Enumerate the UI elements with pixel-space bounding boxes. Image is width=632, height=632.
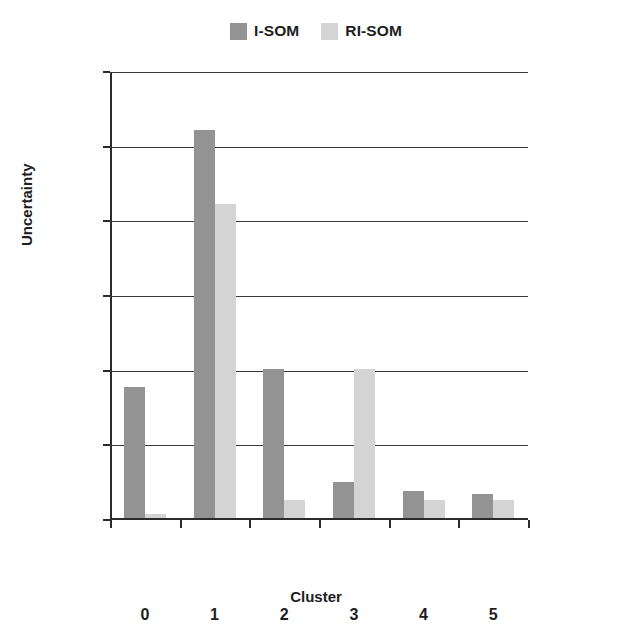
x-tick-label: 1 <box>210 606 219 624</box>
bar-i-som-cluster-4 <box>403 491 424 518</box>
x-tick-label: 0 <box>140 606 149 624</box>
x-tick-mark <box>458 520 460 528</box>
legend-label-ri-som: RI-SOM <box>345 22 402 40</box>
bar-i-som-cluster-5 <box>472 494 493 518</box>
x-axis-title: Cluster <box>0 588 632 605</box>
bar-ri-som-cluster-0 <box>145 514 166 518</box>
y-tick-mark <box>103 444 110 446</box>
x-tick-mark <box>180 520 182 528</box>
bar-ri-som-cluster-5 <box>493 500 514 518</box>
gridline <box>110 221 528 222</box>
gridline <box>110 72 528 73</box>
x-tick-label: 5 <box>489 606 498 624</box>
y-tick-mark <box>103 220 110 222</box>
x-tick-label: 4 <box>419 606 428 624</box>
bar-i-som-cluster-2 <box>263 369 284 518</box>
bar-ri-som-cluster-4 <box>424 500 445 518</box>
chart-legend: I-SOM RI-SOM <box>0 22 632 40</box>
y-tick-mark <box>103 370 110 372</box>
legend-swatch-i-som <box>230 23 247 40</box>
y-tick-mark <box>103 295 110 297</box>
plot-area: 00.0050.010.0150.020.0250.03 012345 <box>110 72 528 520</box>
x-tick-label: 2 <box>280 606 289 624</box>
legend-entry-ri-som: RI-SOM <box>321 22 402 40</box>
bar-i-som-cluster-0 <box>124 387 145 518</box>
x-tick-mark <box>110 520 112 528</box>
legend-entry-i-som: I-SOM <box>230 22 299 40</box>
gridline <box>110 296 528 297</box>
x-tick-mark <box>319 520 321 528</box>
gridline <box>110 147 528 148</box>
y-tick-mark <box>103 519 110 521</box>
y-axis-title: Uncertainty <box>18 163 35 246</box>
gridline <box>110 445 528 446</box>
x-tick-mark <box>249 520 251 528</box>
legend-swatch-ri-som <box>321 23 338 40</box>
y-tick-mark <box>103 71 110 73</box>
x-tick-label: 3 <box>349 606 358 624</box>
x-tick-mark <box>528 520 530 528</box>
y-tick-mark <box>103 146 110 148</box>
bar-i-som-cluster-1 <box>194 130 215 518</box>
gridline <box>110 371 528 372</box>
bar-ri-som-cluster-3 <box>354 369 375 518</box>
x-tick-mark <box>389 520 391 528</box>
bar-ri-som-cluster-2 <box>284 500 305 518</box>
bar-ri-som-cluster-1 <box>215 204 236 518</box>
bar-i-som-cluster-3 <box>333 482 354 518</box>
uncertainty-bar-chart: I-SOM RI-SOM Uncertainty Cluster 00.0050… <box>0 0 632 632</box>
legend-label-i-som: I-SOM <box>254 22 299 40</box>
